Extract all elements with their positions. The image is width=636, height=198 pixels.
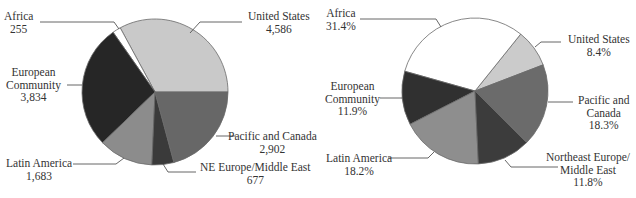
label-name: NE Europe/Middle East <box>200 161 311 174</box>
label-value: 1,683 <box>6 170 72 183</box>
label-value: 11.8% <box>546 176 630 189</box>
label-value: 11.9% <box>325 105 380 118</box>
label-name-line2: Community <box>325 93 380 106</box>
label-ec-left: European Community 3,834 <box>6 66 61 104</box>
label-value: 2,902 <box>228 143 317 156</box>
label-value: 3,834 <box>6 91 61 104</box>
label-name: Africa <box>326 7 356 20</box>
label-africa-right: Africa 31.4% <box>326 7 356 32</box>
label-latin-right: Latin America 18.2% <box>326 152 392 177</box>
label-name: United States <box>248 10 310 23</box>
label-name: United States <box>568 33 630 46</box>
label-ne-left: NE Europe/Middle East 677 <box>200 161 311 186</box>
label-name: Africa <box>4 10 33 23</box>
label-africa-left: Africa 255 <box>4 10 33 35</box>
label-latin-left: Latin America 1,683 <box>6 157 72 182</box>
label-pacific-right: Pacific and Canada 18.3% <box>578 94 629 132</box>
leader-us-right <box>535 42 561 47</box>
label-us-left: United States 4,586 <box>248 10 310 35</box>
label-name-line2: Middle East <box>546 164 630 177</box>
pie-charts <box>0 0 636 198</box>
label-value: 31.4% <box>326 20 356 33</box>
caption-cutoff <box>72 190 272 198</box>
label-pacific-left: Pacific and Canada 2,902 <box>228 130 317 155</box>
label-name-line2: Canada <box>578 107 629 120</box>
chart-figure: Africa 255 United States 4,586 European … <box>0 0 636 198</box>
label-value: 18.3% <box>578 119 629 132</box>
label-name-line1: Northeast Europe/ <box>546 151 630 164</box>
caption-fragment <box>72 196 272 198</box>
leader-latin-left <box>73 158 124 164</box>
label-name-line1: European <box>6 66 61 79</box>
pie-chart-absolute <box>82 19 228 165</box>
label-name: Latin America <box>326 152 392 165</box>
label-value: 255 <box>4 23 33 36</box>
leader-latin-right <box>388 152 434 158</box>
label-us-right: United States 8.4% <box>568 33 630 58</box>
leader-africa-right <box>360 19 441 27</box>
label-value: 8.4% <box>568 46 630 59</box>
label-name-line2: Community <box>6 79 61 92</box>
label-value: 18.2% <box>326 165 392 178</box>
leader-africa-left <box>40 22 119 29</box>
label-ne-right: Northeast Europe/ Middle East 11.8% <box>546 151 630 189</box>
label-name: Latin America <box>6 157 72 170</box>
pie-chart-percent <box>402 18 548 164</box>
label-ec-right: European Community 11.9% <box>325 80 380 118</box>
leader-us-left <box>190 22 242 33</box>
leader-ne-left <box>163 164 196 172</box>
label-value: 677 <box>200 174 311 187</box>
label-name-line1: European <box>325 80 380 93</box>
label-value: 4,586 <box>248 23 310 36</box>
label-name-line1: Pacific and <box>578 94 629 107</box>
label-name: Pacific and Canada <box>228 130 317 143</box>
